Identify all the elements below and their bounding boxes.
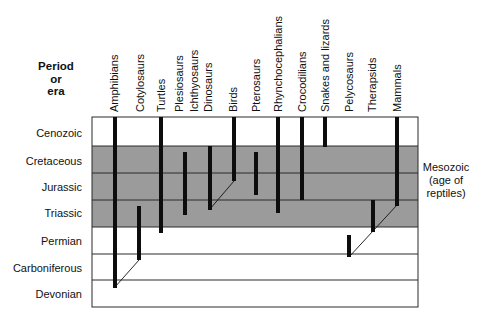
taxon-label-dinosaurs: Dinosaurs: [202, 62, 214, 112]
bar-turtles: [159, 117, 163, 233]
link-amphibians-cotylosaurs: [115, 260, 139, 287]
taxon-label-therapsids: Therapsids: [366, 58, 378, 112]
evolution-timeline-diagram: Period or era Cenozoic Cretaceous Jurass…: [0, 0, 492, 323]
taxon-label-pelycosaurs: Pelycosaurs: [343, 52, 355, 112]
taxon-label-snakes-and-lizards: Snakes and lizards: [319, 19, 331, 112]
taxon-label-amphibians: Amphibians: [108, 55, 120, 112]
bar-cotylosaurs: [137, 206, 141, 260]
bar-crocodilians: [300, 117, 304, 200]
taxon-label-mammals: Mammals: [391, 64, 403, 112]
taxon-label-turtles: Turtles: [155, 79, 167, 112]
taxon-label-ichthyosaurs: Ichthyosaurs: [188, 50, 200, 112]
taxon-label-rhynchocephalians: Rhynchocephalians: [272, 16, 284, 112]
era-label-line-1: Mesozoic: [420, 161, 472, 174]
bar-dinosaurs: [208, 146, 212, 210]
bar-rhynchocephalians: [276, 117, 280, 213]
taxon-label-birds: Birds: [227, 87, 239, 112]
era-label-line-3: reptiles): [420, 187, 472, 200]
bar-pterosaurs: [254, 152, 258, 195]
mesozoic-era-label: Mesozoic (age of reptiles): [420, 161, 472, 200]
bar-therapsids: [371, 200, 375, 232]
bar-snakes-and-lizards: [323, 117, 327, 147]
bar-mammals: [395, 117, 399, 206]
era-label-line-2: (age of: [420, 174, 472, 187]
bar-birds: [232, 117, 236, 181]
bar-pelycosaurs: [347, 235, 351, 257]
timeline-chart: [0, 0, 492, 323]
taxon-label-crocodilians: Crocodilians: [296, 51, 308, 112]
taxon-label-plesiosaurs: Plesiosaurs: [173, 55, 185, 112]
taxon-label-pterosaurs: Pterosaurs: [250, 59, 262, 112]
bar-ichthyosaurs: [183, 152, 187, 215]
bar-amphibians: [113, 117, 117, 288]
taxon-label-cotylosaurs: Cotylosaurs: [134, 54, 146, 112]
